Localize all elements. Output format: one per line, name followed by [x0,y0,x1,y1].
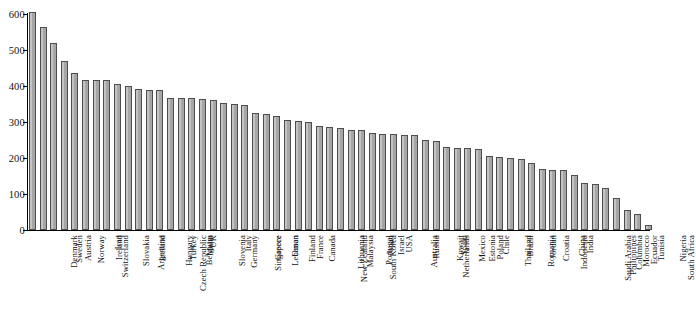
bar [571,175,578,230]
bar [103,80,110,230]
bar [178,98,185,230]
bar-highlight [423,141,425,229]
bar-highlight [179,99,181,229]
bar-highlight [593,185,595,229]
bar-highlight [646,226,648,229]
bar-highlight [455,149,457,229]
bar [82,80,89,230]
bar-highlight [519,160,521,229]
bar-highlight [157,91,159,229]
bar-highlight [136,90,138,229]
bar-highlight [338,129,340,229]
bar [40,27,47,230]
x-axis-tick-label: Oman [291,235,301,256]
bar-series [29,14,654,230]
bar [411,135,418,230]
bar [443,147,450,230]
bar [125,86,132,230]
bar-highlight [465,149,467,229]
bar-highlight [30,13,32,229]
bar-highlight [359,131,361,229]
bar-highlight [221,104,223,229]
bar-highlight [115,85,117,229]
bar [464,148,471,230]
bar-highlight [317,127,319,229]
bar-highlight [402,136,404,229]
x-axis-tick-label: Nigeria [678,235,688,261]
bar-highlight [380,135,382,229]
bar-highlight [41,28,43,229]
bar [348,130,355,230]
x-axis-tick-label: USA [404,235,414,253]
bar [549,170,556,230]
y-axis-line [27,13,28,231]
bar-highlight [497,158,499,229]
bar-highlight [274,117,276,229]
bar-highlight [94,81,96,229]
x-axis-tick-label: Italy [243,235,253,251]
bar [581,183,588,230]
bar-highlight [242,106,244,229]
x-axis-tick-label: Japan [385,235,395,255]
bar-highlight [349,131,351,229]
x-axis-tick-label: Greece [273,235,283,260]
bar [454,148,461,230]
bar-highlight [306,123,308,229]
bar-highlight [434,142,436,229]
x-axis-tick-label: Turkey [188,235,198,260]
bar-highlight [126,87,128,229]
y-axis-tick-labels: 0100200300400500600 [0,0,25,231]
bar [29,12,36,230]
bar-highlight [635,215,637,229]
bar-highlight [370,134,372,229]
x-axis-tick-label: UK [208,235,218,248]
bar [188,98,195,230]
bar-highlight [189,99,191,229]
bar-highlight [508,159,510,229]
bar-highlight [253,114,255,229]
x-axis-tick-label: Slovakia [141,235,151,266]
x-axis-tick-label: Iran [114,235,124,249]
bar [263,114,270,230]
bar-highlight [104,81,106,229]
bar [295,121,302,230]
bar-highlight [487,157,489,229]
x-axis-tick-label: Brazil [525,235,535,257]
bar-highlight [582,184,584,229]
bar [613,198,620,230]
bar [539,169,546,230]
x-axis-tick-label: Canada [328,235,338,261]
bar [369,133,376,230]
x-axis-tick-label: France [315,235,325,259]
bar-highlight [614,199,616,229]
x-axis-line [27,230,650,231]
bar [114,84,121,230]
bar [390,134,397,230]
bar-highlight [296,122,298,229]
x-axis-tick-label: Russia [431,235,441,259]
bar [433,141,440,230]
bar [337,128,344,230]
bar [624,210,631,230]
bar [634,214,641,230]
bar [167,98,174,230]
bar [326,127,333,230]
x-axis-tick-label: Jordan [548,235,558,259]
bar [146,90,153,230]
bar [71,73,78,230]
bar-highlight [603,189,605,229]
x-axis-tick-label: Croatia [561,235,571,261]
bar-highlight [232,105,234,229]
bar-highlight [391,135,393,229]
bar [379,134,386,230]
x-axis-tick-label: India [585,235,595,253]
bar [507,158,514,230]
bar [241,105,248,230]
bar [305,122,312,230]
x-axis-tick-label: Norway [96,235,106,263]
bar-highlight [444,148,446,229]
bar [199,99,206,230]
bar [475,149,482,230]
bar [135,89,142,230]
bar-highlight [200,100,202,229]
